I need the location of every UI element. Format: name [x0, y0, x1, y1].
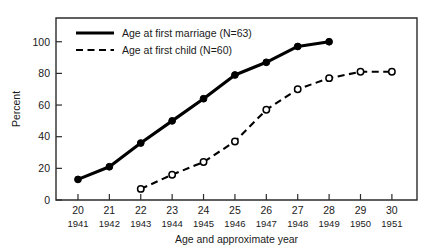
y-axis-tick-label: 100 [32, 36, 50, 48]
x-axis-year-label: 1946 [224, 218, 245, 229]
x-axis-year-label: 1950 [350, 218, 371, 229]
data-point-child [169, 171, 175, 177]
x-axis-tick-label: 20 [72, 204, 84, 216]
y-axis-tick-label: 40 [38, 130, 50, 142]
x-axis-tick-label: 28 [323, 204, 335, 216]
x-axis-tick-label: 30 [386, 204, 398, 216]
data-point-marriage [200, 95, 207, 102]
y-axis-tick-label: 0 [44, 194, 50, 206]
data-point-marriage [326, 38, 333, 45]
x-axis-tick-label: 27 [292, 204, 304, 216]
x-axis-year-label: 1941 [67, 218, 88, 229]
data-point-child [326, 75, 332, 81]
data-point-child [357, 69, 363, 75]
legend-label-marriage-text: Age at first marriage (N=63) [122, 27, 252, 39]
line-chart: 020406080100Percent201941211942221943231… [0, 0, 435, 250]
data-point-child [263, 107, 269, 113]
x-axis-year-label: 1944 [162, 218, 183, 229]
x-axis-year-label: 1948 [287, 218, 308, 229]
data-point-child [389, 69, 395, 75]
data-point-child [200, 159, 206, 165]
legend-label-child-text: Age at first child (N=60) [122, 44, 232, 56]
x-axis-title-text: Age and approximate year [175, 233, 299, 245]
data-point-marriage [106, 163, 113, 170]
data-point-marriage [232, 72, 239, 79]
data-point-marriage [263, 59, 270, 66]
x-axis-tick-label: 26 [260, 204, 272, 216]
y-axis-title-text: Percent [10, 91, 22, 127]
data-point-marriage [75, 176, 82, 183]
x-axis-tick-label: 22 [135, 204, 147, 216]
plot-frame [56, 18, 417, 200]
y-axis-tick-label: 60 [38, 99, 50, 111]
x-axis-tick-label: 29 [355, 204, 367, 216]
data-point-marriage [294, 43, 301, 50]
x-axis-year-label: 1942 [99, 218, 120, 229]
y-axis-tick-label: 80 [38, 67, 50, 79]
x-axis-tick-label: 21 [104, 204, 116, 216]
x-axis-tick-label: 24 [198, 204, 210, 216]
x-axis-year-label: 1951 [381, 218, 402, 229]
x-axis-tick-label: 23 [166, 204, 178, 216]
data-point-marriage [137, 140, 144, 147]
data-point-child [295, 86, 301, 92]
data-point-marriage [169, 117, 176, 124]
series-line-child [141, 72, 392, 189]
x-axis-year-label: 1947 [256, 218, 277, 229]
data-point-child [232, 138, 238, 144]
x-axis-year-label: 1949 [319, 218, 340, 229]
x-axis-tick-label: 25 [229, 204, 241, 216]
chart-figure: 020406080100Percent201941211942221943231… [0, 0, 435, 250]
y-axis-tick-label: 20 [38, 162, 50, 174]
x-axis-year-label: 1943 [130, 218, 151, 229]
data-point-child [138, 186, 144, 192]
x-axis-year-label: 1945 [193, 218, 214, 229]
